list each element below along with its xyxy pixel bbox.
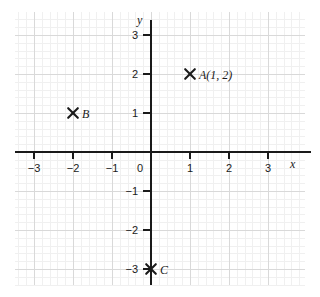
gridline-major-vertical [34, 12, 35, 285]
gridline-minor-horizontal [15, 121, 305, 122]
gridline-minor-vertical [159, 12, 160, 285]
x-axis-tick [111, 153, 113, 159]
gridline-major-horizontal [15, 74, 305, 75]
gridline-major-horizontal [15, 191, 305, 192]
gridline-minor-horizontal [15, 19, 305, 20]
point-marker-b [66, 106, 80, 120]
gridline-minor-vertical [206, 12, 207, 285]
gridline-minor-vertical [57, 12, 58, 285]
gridline-minor-vertical [182, 12, 183, 285]
y-tick-label: 2 [112, 69, 138, 80]
gridline-minor-vertical [96, 12, 97, 285]
gridline-minor-horizontal [15, 129, 305, 130]
point-marker-c [144, 262, 158, 276]
gridline-minor-vertical [18, 12, 19, 285]
gridline-minor-vertical [198, 12, 199, 285]
gridline-minor-horizontal [15, 207, 305, 208]
gridline-minor-vertical [221, 12, 222, 285]
gridline-minor-horizontal [15, 105, 305, 106]
y-axis-label: y [137, 14, 142, 26]
gridline-minor-horizontal [15, 238, 305, 239]
gridline-minor-horizontal [15, 43, 305, 44]
gridline-minor-horizontal [15, 66, 305, 67]
gridline-minor-vertical [143, 12, 144, 285]
y-axis-tick [143, 112, 150, 114]
gridline-minor-vertical [50, 12, 51, 285]
gridline-minor-horizontal [15, 136, 305, 137]
gridline-minor-horizontal [15, 222, 305, 223]
gridline-minor-horizontal [15, 214, 305, 215]
x-axis-label: x [290, 158, 295, 170]
x-axis-tick [267, 153, 269, 159]
y-axis-tick [143, 73, 150, 75]
y-axis-tick [143, 34, 150, 36]
gridline-minor-vertical [81, 12, 82, 285]
x-tick-label: −3 [28, 163, 41, 174]
x-tick-label: 0 [137, 163, 143, 174]
gridline-minor-vertical [167, 12, 168, 285]
point-label-b: B [82, 108, 89, 120]
gridline-minor-vertical [104, 12, 105, 285]
gridline-major-horizontal [15, 113, 305, 114]
y-axis-tick [143, 229, 150, 231]
gridline-minor-vertical [299, 12, 300, 285]
point-label-c: C [160, 264, 168, 276]
gridline-minor-vertical [213, 12, 214, 285]
coordinate-plane-chart: −3−2−10123321−1−2−3 x y A(1, 2)BC [0, 0, 320, 297]
gridline-major-vertical [190, 12, 191, 285]
gridline-minor-horizontal [15, 144, 305, 145]
x-axis-tick [189, 153, 191, 159]
x-axis-tick [72, 153, 74, 159]
gridline-major-horizontal [15, 230, 305, 231]
gridline-minor-vertical [252, 12, 253, 285]
gridline-minor-horizontal [15, 285, 305, 286]
gridline-minor-vertical [284, 12, 285, 285]
gridline-minor-vertical [89, 12, 90, 285]
x-tick-label: −2 [67, 163, 80, 174]
y-tick-label: −3 [112, 264, 138, 275]
gridline-minor-vertical [135, 12, 136, 285]
x-axis-tick [228, 153, 230, 159]
gridline-minor-vertical [174, 12, 175, 285]
x-tick-label: 1 [187, 163, 193, 174]
gridline-major-vertical [73, 12, 74, 285]
gridline-major-vertical [229, 12, 230, 285]
gridline-minor-horizontal [15, 82, 305, 83]
gridline-minor-vertical [260, 12, 261, 285]
y-axis-line [150, 20, 152, 285]
point-label-a: A(1, 2) [199, 69, 232, 81]
y-tick-label: −1 [112, 186, 138, 197]
gridline-minor-vertical [245, 12, 246, 285]
gridline-minor-vertical [42, 12, 43, 285]
y-tick-label: 1 [112, 108, 138, 119]
x-axis-tick [33, 153, 35, 159]
gridline-major-vertical [112, 12, 113, 285]
gridline-minor-horizontal [15, 27, 305, 28]
grid [15, 12, 305, 285]
gridline-minor-horizontal [15, 199, 305, 200]
gridline-minor-vertical [120, 12, 121, 285]
gridline-major-vertical [268, 12, 269, 285]
gridline-minor-horizontal [15, 97, 305, 98]
gridline-minor-horizontal [15, 51, 305, 52]
y-tick-label: −2 [112, 225, 138, 236]
gridline-minor-horizontal [15, 183, 305, 184]
gridline-minor-horizontal [15, 58, 305, 59]
gridline-minor-horizontal [15, 160, 305, 161]
gridline-minor-horizontal [15, 175, 305, 176]
gridline-minor-horizontal [15, 90, 305, 91]
y-tick-label: 3 [112, 30, 138, 41]
point-marker-a [183, 67, 197, 81]
x-tick-label: −1 [106, 163, 119, 174]
gridline-minor-horizontal [15, 253, 305, 254]
gridline-minor-horizontal [15, 246, 305, 247]
gridline-minor-vertical [237, 12, 238, 285]
y-axis-tick [143, 190, 150, 192]
gridline-minor-vertical [276, 12, 277, 285]
gridline-minor-vertical [291, 12, 292, 285]
x-tick-label: 3 [265, 163, 271, 174]
gridline-major-horizontal [15, 35, 305, 36]
gridline-minor-horizontal [15, 168, 305, 169]
x-tick-label: 2 [226, 163, 232, 174]
gridline-minor-vertical [65, 12, 66, 285]
